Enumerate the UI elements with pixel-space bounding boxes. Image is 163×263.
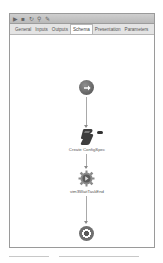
toolbar: ▶ ■ ↻ ⚲ ✎ <box>10 14 154 24</box>
end-node-icon[interactable] <box>79 226 94 241</box>
connector-arrow-icon <box>84 166 88 169</box>
search-icon[interactable]: ⚲ <box>36 16 42 22</box>
save-icon[interactable]: ■ <box>20 16 26 22</box>
footer-bar <box>9 252 155 260</box>
run-icon[interactable]: ▶ <box>12 16 18 22</box>
workflow-editor-panel: ▶ ■ ↻ ⚲ ✎ General Inputs Outputs Schema … <box>9 13 155 248</box>
tab-bar: General Inputs Outputs Schema Presentati… <box>10 24 154 35</box>
node-label-create-configspec: Create ConfigSpec <box>57 147 117 152</box>
tab-schema[interactable]: Schema <box>70 24 93 34</box>
tab-general[interactable]: General <box>13 25 33 34</box>
arrow-right-icon <box>82 83 92 93</box>
start-node[interactable] <box>79 80 94 95</box>
connector-line <box>86 196 87 223</box>
refresh-icon[interactable]: ↻ <box>28 16 34 22</box>
footer-divider <box>9 256 49 257</box>
task-badge-icon <box>97 131 103 134</box>
footer-divider <box>59 256 139 257</box>
edit-icon[interactable]: ✎ <box>44 16 50 22</box>
connector-arrow-icon <box>84 221 88 224</box>
tab-outputs[interactable]: Outputs <box>50 25 70 34</box>
tab-presentation[interactable]: Presentation <box>93 25 123 34</box>
node-label-wait-task: vim3WaitTaskEnd <box>57 189 117 194</box>
gear-icon[interactable] <box>78 170 95 187</box>
tab-inputs[interactable]: Inputs <box>33 25 50 34</box>
schema-canvas[interactable]: Create ConfigSpec vim3WaitTaskEnd <box>10 36 154 247</box>
scriptable-task-icon[interactable] <box>80 128 94 146</box>
tab-parameters[interactable]: Parameters <box>123 25 151 34</box>
connector-line <box>86 97 87 127</box>
